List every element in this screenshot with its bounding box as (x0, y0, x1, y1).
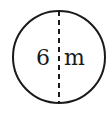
circle-diagram: 6 m (0, 0, 111, 114)
diameter-value: 6 (36, 45, 50, 70)
diameter-unit: m (64, 45, 85, 70)
